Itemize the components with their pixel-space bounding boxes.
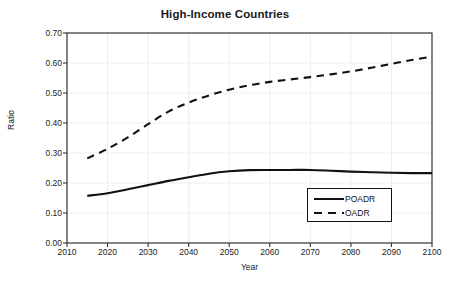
- plot-area: [0, 0, 450, 282]
- legend-item-poadr: POADR: [308, 192, 393, 206]
- chart-legend: POADR OADR: [307, 188, 392, 222]
- legend-label-oadr: OADR: [345, 208, 370, 218]
- legend-swatch-solid-icon: [313, 194, 345, 204]
- chart-figure: High-Income Countries Ratio Year 0.000.1…: [0, 0, 450, 282]
- legend-label-poadr: POADR: [345, 194, 375, 204]
- legend-swatch-dashed-icon: [313, 208, 345, 218]
- legend-item-oadr: OADR: [308, 206, 393, 220]
